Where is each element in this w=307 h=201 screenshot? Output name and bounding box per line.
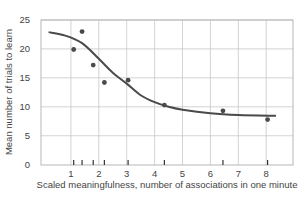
data-point xyxy=(221,108,226,113)
y-tick-label: 15 xyxy=(19,72,30,83)
data-point xyxy=(80,29,85,34)
y-tick-label: 0 xyxy=(25,159,30,170)
x-axis-label: Scaled meaningfulness, number of associa… xyxy=(37,179,298,190)
data-point xyxy=(71,47,76,52)
x-tick-label: 2 xyxy=(96,168,101,179)
fitted-curve-path xyxy=(49,32,276,116)
y-axis-label: Mean number of trials to learn xyxy=(3,29,14,155)
x-tick-label: 5 xyxy=(180,168,185,179)
x-tick-label: 1 xyxy=(68,168,73,179)
x-tick-label: 8 xyxy=(264,168,269,179)
chart-canvas: 0510152025 12345678 Mean number of trial… xyxy=(0,0,307,201)
x-tick-label: 6 xyxy=(208,168,213,179)
y-tick-labels: 0510152025 xyxy=(19,14,30,170)
x-tick-label: 3 xyxy=(124,168,129,179)
y-tick-label: 10 xyxy=(19,101,30,112)
x-tick-label: 7 xyxy=(236,168,241,179)
data-point xyxy=(126,78,131,83)
y-tick-label: 5 xyxy=(25,130,30,141)
x-tick-label: 4 xyxy=(152,168,157,179)
fitted-curve xyxy=(49,32,276,116)
data-point xyxy=(102,80,107,85)
data-point xyxy=(91,63,96,68)
y-tick-label: 20 xyxy=(19,43,30,54)
y-tick-label: 25 xyxy=(19,14,30,25)
data-point xyxy=(162,103,167,108)
data-point xyxy=(265,117,270,122)
x-tick-labels: 12345678 xyxy=(68,168,269,179)
